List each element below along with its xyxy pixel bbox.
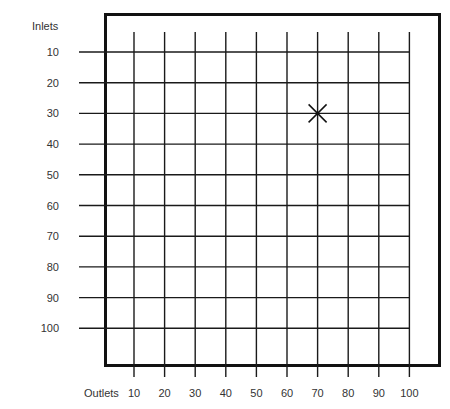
column-lines <box>134 32 409 377</box>
column-label: 60 <box>281 387 293 399</box>
column-label: 90 <box>373 387 385 399</box>
row-label: 80 <box>47 261 59 273</box>
column-labels: 102030405060708090100 <box>128 387 419 399</box>
column-label: 30 <box>189 387 201 399</box>
column-label: 20 <box>158 387 170 399</box>
row-label: 40 <box>47 138 59 150</box>
row-label: 70 <box>47 230 59 242</box>
row-label: 20 <box>47 77 59 89</box>
column-label: 10 <box>128 387 140 399</box>
y-axis-label: Inlets <box>32 20 59 32</box>
column-label: 80 <box>342 387 354 399</box>
column-label: 40 <box>220 387 232 399</box>
row-label: 50 <box>47 169 59 181</box>
row-labels: 102030405060708090100 <box>41 46 59 334</box>
row-label: 60 <box>47 200 59 212</box>
row-label: 30 <box>47 107 59 119</box>
column-label: 50 <box>250 387 262 399</box>
row-lines <box>79 52 409 328</box>
inlet-outlet-grid-diagram: 102030405060708090100 102030405060708090… <box>0 0 450 409</box>
x-axis-label: Outlets <box>84 387 119 399</box>
grid-frame <box>106 15 440 366</box>
column-label: 70 <box>311 387 323 399</box>
row-label: 100 <box>41 322 59 334</box>
row-label: 10 <box>47 46 59 58</box>
column-label: 100 <box>400 387 418 399</box>
row-label: 90 <box>47 292 59 304</box>
